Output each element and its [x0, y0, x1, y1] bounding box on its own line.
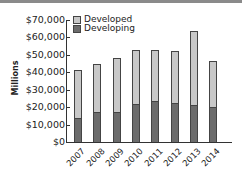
x-tick-label: 2012 — [161, 146, 183, 168]
x-tick-label: 2014 — [200, 146, 222, 168]
x-axis-line — [66, 142, 232, 143]
bar-developing-2014 — [209, 107, 217, 142]
bar-developing-2007 — [74, 118, 82, 142]
legend-label-developing: Developing — [84, 24, 135, 33]
y-tick-label: $30,000 — [26, 85, 65, 95]
legend: Developed Developing — [73, 15, 135, 33]
y-tick-label: $40,000 — [26, 67, 65, 77]
bar-developed-2009 — [113, 58, 121, 112]
bar-developed-2011 — [151, 50, 159, 101]
bar-developed-2013 — [190, 31, 198, 105]
x-tick-label: 2011 — [142, 146, 164, 168]
y-tick-label: $0 — [53, 137, 65, 147]
bar-developing-2010 — [132, 104, 140, 142]
bar-developed-2014 — [209, 61, 217, 107]
bar-developed-2007 — [74, 70, 82, 118]
y-axis-line — [66, 20, 67, 142]
y-tick-label: $50,000 — [26, 50, 65, 60]
bar-developing-2009 — [113, 112, 121, 142]
x-tick-label: 2010 — [123, 146, 145, 168]
y-tick-label: $10,000 — [26, 120, 65, 130]
bar-developing-2011 — [151, 101, 159, 142]
legend-swatch-developed — [73, 16, 81, 24]
y-tick-label: $60,000 — [26, 32, 65, 42]
bar-developing-2013 — [190, 105, 198, 142]
top-band — [0, 0, 242, 3]
x-tick-label: 2008 — [84, 146, 106, 168]
x-tick-label: 2007 — [65, 146, 87, 168]
x-tick-label: 2013 — [181, 146, 203, 168]
legend-item-developing: Developing — [73, 24, 135, 33]
bar-developed-2012 — [171, 51, 179, 103]
bar-developing-2012 — [171, 103, 179, 142]
y-tick-label: $70,000 — [26, 15, 65, 25]
bar-developing-2008 — [93, 112, 101, 142]
bar-developed-2008 — [93, 64, 101, 112]
y-axis-label: Millions — [10, 60, 22, 96]
bar-developed-2010 — [132, 50, 140, 104]
x-tick-label: 2009 — [103, 146, 125, 168]
legend-swatch-developing — [73, 25, 81, 33]
y-tick-label: $20,000 — [26, 102, 65, 112]
